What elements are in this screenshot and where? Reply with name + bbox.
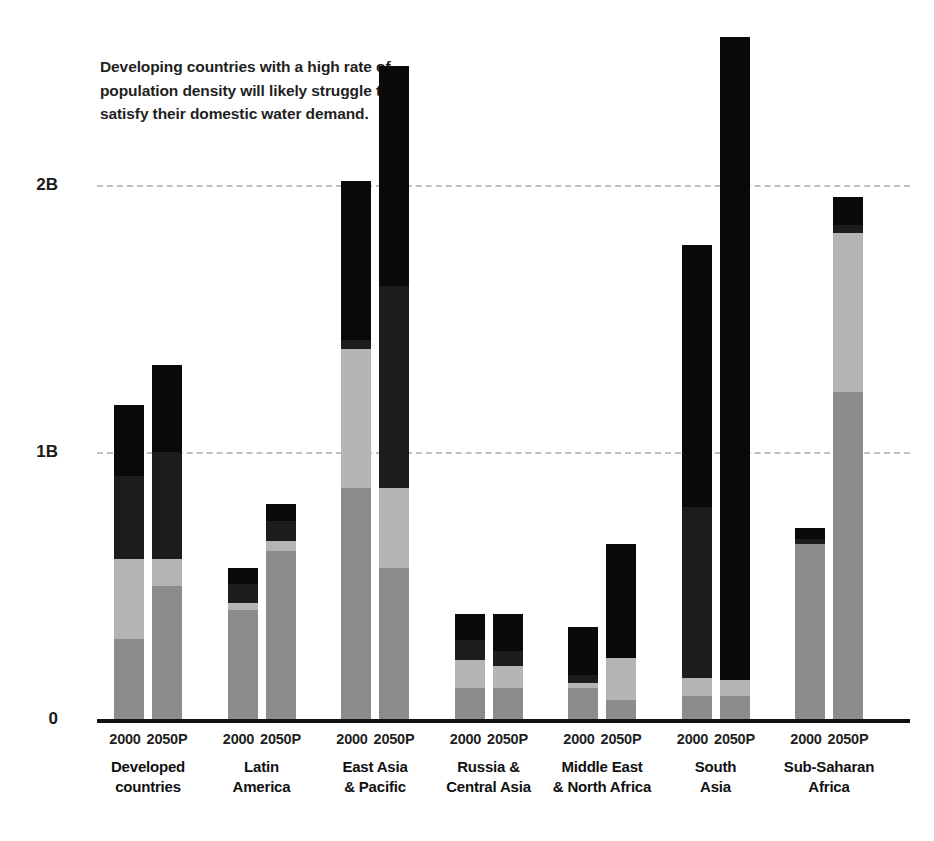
bar-segment-1 bbox=[455, 688, 485, 719]
period-labels: 20002050P bbox=[202, 731, 322, 747]
y-tick-label-2B: 2B bbox=[12, 175, 58, 195]
bar-segment-3 bbox=[341, 340, 371, 349]
x-axis-group: 20002050PSouthAsia bbox=[656, 731, 776, 797]
category-label-line-2: Central Asia bbox=[429, 777, 549, 797]
bar bbox=[379, 66, 409, 719]
period-label-2000: 2000 bbox=[333, 731, 371, 747]
x-axis-group: 20002050PLatinAmerica bbox=[202, 731, 322, 797]
bar-segment-3 bbox=[152, 452, 182, 559]
category-label-line-1: Latin bbox=[202, 757, 322, 777]
bar-segment-4 bbox=[228, 568, 258, 584]
period-labels: 20002050P bbox=[88, 731, 208, 747]
category-label-line-1: South bbox=[656, 757, 776, 777]
bar-segment-2 bbox=[341, 349, 371, 488]
category-label: LatinAmerica bbox=[202, 757, 322, 797]
population-water-demand-chart: Developing countries with a high rate of… bbox=[0, 0, 934, 841]
y-tick-label-0: 0 bbox=[12, 709, 58, 729]
category-label-line-2: countries bbox=[88, 777, 208, 797]
bar-segment-2 bbox=[720, 680, 750, 696]
category-label-line-2: Africa bbox=[769, 777, 889, 797]
period-label-2000: 2000 bbox=[560, 731, 598, 747]
period-label-2050P: 2050P bbox=[144, 731, 190, 747]
bar-segment-3 bbox=[833, 225, 863, 233]
bar-segment-4 bbox=[455, 614, 485, 641]
bar-segment-2 bbox=[152, 559, 182, 586]
category-label: Developedcountries bbox=[88, 757, 208, 797]
period-label-2050P: 2050P bbox=[258, 731, 304, 747]
bar bbox=[266, 504, 296, 719]
bar-segment-1 bbox=[379, 568, 409, 719]
bar-segment-1 bbox=[682, 696, 712, 719]
bar-segment-1 bbox=[228, 610, 258, 719]
period-label-2000: 2000 bbox=[220, 731, 258, 747]
bar-segment-2 bbox=[114, 559, 144, 639]
bar-segment-3 bbox=[228, 584, 258, 603]
x-axis-group: 20002050PDevelopedcountries bbox=[88, 731, 208, 797]
period-labels: 20002050P bbox=[542, 731, 662, 747]
bar-segment-2 bbox=[682, 678, 712, 697]
bar-segment-1 bbox=[493, 688, 523, 719]
period-label-2000: 2000 bbox=[787, 731, 825, 747]
bar bbox=[795, 528, 825, 719]
bar-segment-1 bbox=[606, 700, 636, 719]
bar bbox=[682, 245, 712, 719]
x-axis-group: 20002050PEast Asia& Pacific bbox=[315, 731, 435, 797]
category-label-line-1: Developed bbox=[88, 757, 208, 777]
bar-segment-1 bbox=[568, 688, 598, 719]
bar-segment-2 bbox=[379, 488, 409, 568]
period-label-2000: 2000 bbox=[447, 731, 485, 747]
category-label: SouthAsia bbox=[656, 757, 776, 797]
bar-segment-4 bbox=[833, 197, 863, 225]
bar-segment-4 bbox=[114, 405, 144, 476]
bar bbox=[114, 405, 144, 719]
bar-segment-1 bbox=[720, 696, 750, 719]
bar-segment-2 bbox=[493, 666, 523, 689]
x-axis-group: 20002050PSub-SaharanAfrica bbox=[769, 731, 889, 797]
bar bbox=[833, 197, 863, 719]
category-label-line-1: Russia & bbox=[429, 757, 549, 777]
period-labels: 20002050P bbox=[656, 731, 776, 747]
bar-segment-1 bbox=[152, 586, 182, 720]
period-label-2000: 2000 bbox=[674, 731, 712, 747]
bar-segment-2 bbox=[455, 660, 485, 688]
bar bbox=[720, 37, 750, 719]
bar-segment-4 bbox=[720, 37, 750, 680]
category-label: Russia &Central Asia bbox=[429, 757, 549, 797]
bar-segment-2 bbox=[606, 658, 636, 701]
bar bbox=[455, 614, 485, 719]
bar-segment-1 bbox=[341, 488, 371, 719]
bar-segment-1 bbox=[266, 551, 296, 719]
period-labels: 20002050P bbox=[769, 731, 889, 747]
period-label-2050P: 2050P bbox=[371, 731, 417, 747]
bar bbox=[152, 365, 182, 719]
category-label: Sub-SaharanAfrica bbox=[769, 757, 889, 797]
bar-segment-4 bbox=[682, 245, 712, 507]
bar bbox=[228, 568, 258, 719]
category-label-line-1: East Asia bbox=[315, 757, 435, 777]
bar bbox=[606, 544, 636, 719]
period-label-2050P: 2050P bbox=[485, 731, 531, 747]
bar-segment-3 bbox=[379, 286, 409, 488]
bar-segment-2 bbox=[833, 233, 863, 392]
category-label-line-2: & North Africa bbox=[542, 777, 662, 797]
bar-segment-4 bbox=[379, 66, 409, 286]
bar-segment-3 bbox=[493, 651, 523, 666]
gridline-1B bbox=[97, 452, 910, 454]
period-label-2000: 2000 bbox=[106, 731, 144, 747]
x-axis-group: 20002050PMiddle East& North Africa bbox=[542, 731, 662, 797]
bar-segment-4 bbox=[152, 365, 182, 452]
period-labels: 20002050P bbox=[429, 731, 549, 747]
category-label-line-1: Sub-Saharan bbox=[769, 757, 889, 777]
period-label-2050P: 2050P bbox=[825, 731, 871, 747]
bar-segment-4 bbox=[341, 181, 371, 340]
period-label-2050P: 2050P bbox=[598, 731, 644, 747]
bar-segment-4 bbox=[795, 528, 825, 539]
bar-segment-4 bbox=[568, 627, 598, 675]
bar-segment-1 bbox=[833, 392, 863, 719]
bar-segment-4 bbox=[606, 544, 636, 657]
bar bbox=[341, 181, 371, 719]
y-tick-label-1B: 1B bbox=[12, 442, 58, 462]
x-axis-line bbox=[97, 719, 910, 723]
plot-area: 01B2B bbox=[0, 0, 934, 841]
bar bbox=[493, 614, 523, 719]
